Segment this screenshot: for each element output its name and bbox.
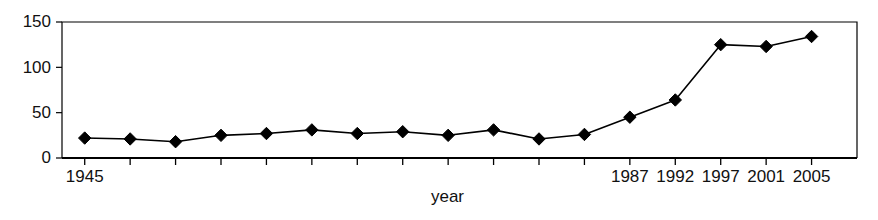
data-point-marker — [578, 128, 590, 140]
data-point-marker — [260, 127, 272, 139]
chart-canvas: 050100150194519871992199720012005year — [0, 0, 878, 220]
data-point-marker — [487, 124, 499, 136]
x-axis-title: year — [431, 187, 464, 206]
data-point-marker — [805, 30, 817, 42]
data-point-marker — [124, 133, 136, 145]
data-point-marker — [306, 124, 318, 136]
data-point-marker — [533, 133, 545, 145]
x-tick-label: 2005 — [793, 167, 831, 186]
line-chart: 050100150194519871992199720012005year — [0, 0, 878, 220]
data-point-marker — [624, 111, 636, 123]
data-point-marker — [397, 126, 409, 138]
y-tick-label: 100 — [23, 58, 51, 77]
x-tick-label: 1945 — [66, 167, 104, 186]
data-line — [85, 37, 812, 142]
data-point-marker — [442, 129, 454, 141]
data-point-marker — [79, 132, 91, 144]
data-point-marker — [215, 129, 227, 141]
x-tick-label: 2001 — [747, 167, 785, 186]
data-point-marker — [169, 135, 181, 147]
data-point-marker — [351, 127, 363, 139]
data-point-marker — [760, 40, 772, 52]
y-tick-label: 0 — [42, 148, 51, 167]
y-tick-label: 150 — [23, 12, 51, 31]
x-tick-label: 1992 — [656, 167, 694, 186]
x-tick-label: 1987 — [611, 167, 649, 186]
plot-frame — [62, 22, 857, 158]
x-tick-label: 1997 — [702, 167, 740, 186]
y-tick-label: 50 — [32, 103, 51, 122]
